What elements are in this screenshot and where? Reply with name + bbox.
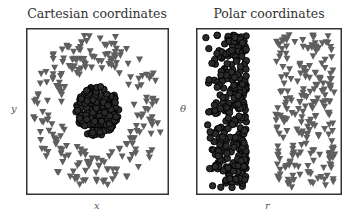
polar-scatter-plot: [196, 28, 342, 195]
right-x-axis-label: r: [265, 200, 270, 211]
left-x-axis-label: x: [94, 200, 100, 211]
cartesian-scatter-plot: [26, 28, 169, 195]
left-chart-title: Cartesian coordinates: [26, 6, 168, 21]
right-chart-title: Polar coordinates: [196, 6, 342, 21]
right-y-axis-label: θ: [180, 103, 186, 114]
left-y-axis-label: y: [11, 103, 17, 114]
